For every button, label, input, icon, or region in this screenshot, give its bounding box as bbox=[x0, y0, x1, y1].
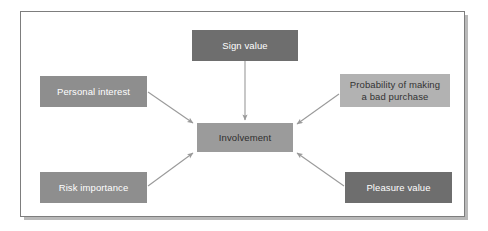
node-risk-importance-label: Risk importance bbox=[55, 182, 133, 194]
node-personal-interest-label: Personal interest bbox=[53, 86, 134, 98]
arrow-pleasure-value-to-involvement bbox=[297, 153, 344, 186]
node-involvement-label: Involvement bbox=[215, 132, 275, 144]
node-pleasure-value: Pleasure value bbox=[345, 172, 452, 203]
node-pleasure-value-label: Pleasure value bbox=[362, 182, 434, 194]
node-involvement: Involvement bbox=[197, 123, 293, 152]
node-probability-bad-purchase: Probability of making a bad purchase bbox=[340, 74, 450, 107]
node-sign-value: Sign value bbox=[192, 30, 298, 61]
node-risk-importance: Risk importance bbox=[40, 172, 147, 203]
node-personal-interest: Personal interest bbox=[40, 76, 147, 107]
arrow-personal-interest-to-involvement bbox=[148, 92, 193, 123]
node-probability-bad-purchase-label: Probability of making a bad purchase bbox=[346, 79, 444, 102]
diagram-screenshot: Sign value Personal interest Probability… bbox=[0, 0, 488, 231]
node-sign-value-label: Sign value bbox=[218, 40, 271, 52]
arrow-risk-importance-to-involvement bbox=[148, 153, 193, 186]
arrow-probability-to-involvement bbox=[297, 94, 339, 124]
